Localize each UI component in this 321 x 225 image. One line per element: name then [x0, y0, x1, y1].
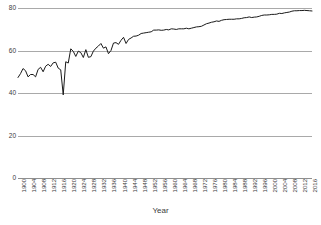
y-tick-label-60: 60 [9, 47, 16, 54]
x-tick-label-1984: 1984 [232, 179, 238, 192]
x-axis-tick-labels: 1900190419081912191619201924192819321936… [18, 179, 312, 205]
x-tick-label-1976: 1976 [212, 179, 218, 192]
x-tick-label-2012: 2012 [302, 179, 308, 192]
x-tick-label-1960: 1960 [172, 179, 178, 192]
x-tick-label-1980: 1980 [222, 179, 228, 192]
y-axis-tick-labels: 020406080 [0, 8, 16, 178]
x-tick-label-1964: 1964 [182, 179, 188, 192]
x-tick-label-1916: 1916 [61, 179, 67, 192]
y-tick-label-20: 20 [9, 132, 16, 139]
data-series-line [18, 8, 312, 178]
life-expectancy-line-chart: 020406080 190019041908191219161920192419… [0, 0, 321, 225]
x-tick-label-1968: 1968 [192, 179, 198, 192]
x-tick-label-1956: 1956 [162, 179, 168, 192]
x-tick-label-1952: 1952 [152, 179, 158, 192]
x-tick-label-1932: 1932 [101, 179, 107, 192]
x-tick-label-1924: 1924 [81, 179, 87, 192]
x-tick-label-2000: 2000 [272, 179, 278, 192]
plot-area [18, 8, 312, 178]
x-tick-label-1900: 1900 [21, 179, 27, 192]
x-tick-label-1936: 1936 [111, 179, 117, 192]
x-tick-label-1944: 1944 [132, 179, 138, 192]
y-tick-label-40: 40 [9, 90, 16, 97]
x-tick-label-1996: 1996 [262, 179, 268, 192]
x-tick-label-1908: 1908 [41, 179, 47, 192]
x-axis-title: Year [0, 206, 321, 215]
x-tick-label-1912: 1912 [51, 179, 57, 192]
x-tick-label-1940: 1940 [122, 179, 128, 192]
y-tick-label-80: 80 [9, 5, 16, 12]
x-tick-label-2016: 2016 [312, 179, 318, 192]
x-tick-label-1988: 1988 [242, 179, 248, 192]
x-tick-label-1972: 1972 [202, 179, 208, 192]
x-tick-label-1948: 1948 [142, 179, 148, 192]
x-tick-label-2004: 2004 [282, 179, 288, 192]
y-tick-label-0: 0 [12, 175, 16, 182]
x-tick-label-1904: 1904 [31, 179, 37, 192]
x-tick-label-1928: 1928 [91, 179, 97, 192]
x-tick-label-1992: 1992 [252, 179, 258, 192]
series-path-life-expectancy [18, 10, 312, 95]
x-tick-label-2008: 2008 [292, 179, 298, 192]
x-tick-label-1920: 1920 [71, 179, 77, 192]
